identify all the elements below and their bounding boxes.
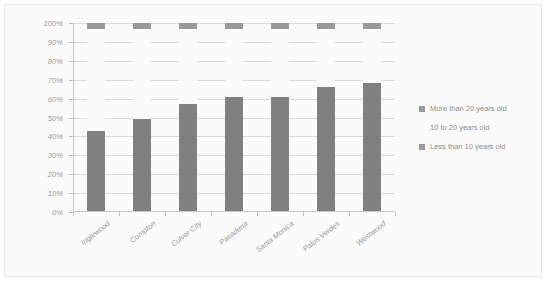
bar-segment[interactable] — [271, 23, 288, 29]
bar-segment[interactable] — [317, 23, 334, 29]
y-tick-mark — [69, 42, 73, 43]
legend-label: Less than 10 years old — [430, 142, 505, 151]
legend-swatch-icon — [419, 125, 425, 131]
y-tick-mark — [69, 136, 73, 137]
bar-segment[interactable] — [225, 29, 242, 97]
bar-segment[interactable] — [317, 29, 334, 88]
x-tick-mark — [303, 212, 304, 216]
y-tick-mark — [69, 99, 73, 100]
chart-legend: More than 20 years old10 to 20 years old… — [419, 99, 539, 156]
x-axis-line — [73, 211, 395, 212]
bar-segment[interactable] — [87, 131, 104, 212]
y-axis-tick-label: 40% — [48, 132, 63, 141]
x-tick-mark — [395, 212, 396, 216]
y-tick-mark — [69, 61, 73, 62]
legend-item[interactable]: Less than 10 years old — [419, 137, 539, 156]
y-tick-mark — [69, 174, 73, 175]
x-tick-mark — [349, 212, 350, 216]
bar-segment[interactable] — [179, 23, 196, 29]
legend-item[interactable]: More than 20 years old — [419, 99, 539, 118]
bar-segment[interactable] — [271, 29, 288, 97]
bar-segment[interactable] — [363, 23, 380, 29]
bar-stack[interactable] — [133, 23, 150, 212]
x-tick-mark — [73, 212, 74, 216]
x-tick-mark — [257, 212, 258, 216]
y-tick-mark — [69, 80, 73, 81]
bar-stack[interactable] — [87, 23, 104, 212]
bar-segment[interactable] — [133, 119, 150, 212]
y-axis-line — [73, 23, 74, 212]
bar-segment[interactable] — [363, 29, 380, 84]
plot-area — [73, 23, 395, 212]
x-tick-mark — [165, 212, 166, 216]
y-axis-tick-label: 60% — [48, 94, 63, 103]
y-axis-tick-label: 50% — [48, 113, 63, 122]
bar-stack[interactable] — [225, 23, 242, 212]
y-tick-mark — [69, 193, 73, 194]
legend-swatch-icon — [419, 144, 425, 150]
y-axis-tick-label: 100% — [43, 19, 63, 28]
x-tick-mark — [119, 212, 120, 216]
bar-segment[interactable] — [133, 29, 150, 120]
bar-segment[interactable] — [363, 83, 380, 212]
bar-segment[interactable] — [225, 97, 242, 212]
bar-stack[interactable] — [363, 23, 380, 212]
y-axis-tick-label: 80% — [48, 56, 63, 65]
bar-stack[interactable] — [179, 23, 196, 212]
legend-swatch-icon — [419, 106, 425, 112]
x-tick-mark — [211, 212, 212, 216]
y-tick-mark — [69, 118, 73, 119]
legend-label: More than 20 years old — [430, 104, 507, 113]
y-tick-mark — [69, 23, 73, 24]
y-tick-mark — [69, 155, 73, 156]
bar-segment[interactable] — [317, 87, 334, 212]
y-axis-tick-label: 70% — [48, 75, 63, 84]
bar-stack[interactable] — [271, 23, 288, 212]
bar-segment[interactable] — [87, 23, 104, 29]
legend-item[interactable]: 10 to 20 years old — [419, 118, 539, 137]
bar-segment[interactable] — [87, 29, 104, 131]
bar-stack[interactable] — [317, 23, 334, 212]
y-axis-tick-label: 20% — [48, 170, 63, 179]
chart-container: 100%90%80%70%60%50%40%30%20%10%0% Inglew… — [4, 4, 542, 277]
bar-segment[interactable] — [179, 104, 196, 212]
bar-segment[interactable] — [179, 29, 196, 105]
bar-segment[interactable] — [225, 23, 242, 29]
bar-segment[interactable] — [271, 97, 288, 212]
y-axis-tick-label: 30% — [48, 151, 63, 160]
bar-segment[interactable] — [133, 23, 150, 29]
legend-label: 10 to 20 years old — [430, 123, 490, 132]
y-axis-tick-label: 90% — [48, 37, 63, 46]
y-axis-tick-label: 10% — [48, 189, 63, 198]
y-axis-tick-label: 0% — [52, 208, 63, 217]
